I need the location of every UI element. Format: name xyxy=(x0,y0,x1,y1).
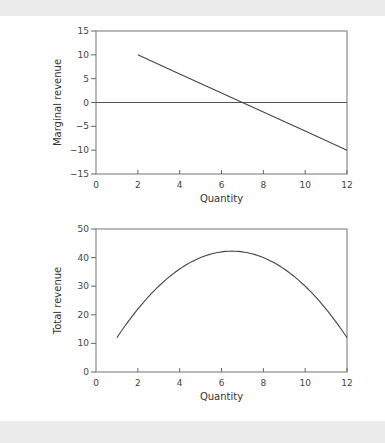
revenue-charts: 024681012−15−10−5051015QuantityMarginal … xyxy=(0,0,385,443)
x-tick-label: 12 xyxy=(341,378,352,388)
y-tick-label: −10 xyxy=(70,145,89,155)
x-tick-label: 0 xyxy=(93,180,99,190)
x-tick-label: 0 xyxy=(93,378,99,388)
x-tick-label: 12 xyxy=(341,180,352,190)
y-tick-label: 30 xyxy=(78,281,90,291)
y-tick-label: 0 xyxy=(83,98,89,108)
y-tick-label: 10 xyxy=(78,338,90,348)
x-tick-label: 2 xyxy=(135,378,141,388)
y-axis-title: Total revenue xyxy=(52,267,63,335)
x-tick-label: 8 xyxy=(260,378,266,388)
x-tick-label: 6 xyxy=(219,378,225,388)
plot-frame xyxy=(96,229,347,372)
y-tick-label: 20 xyxy=(78,310,90,320)
y-tick-label: 40 xyxy=(78,253,90,263)
x-tick-label: 2 xyxy=(135,180,141,190)
series-line xyxy=(117,251,347,338)
y-tick-label: 5 xyxy=(83,74,89,84)
x-tick-label: 8 xyxy=(260,180,266,190)
x-tick-label: 10 xyxy=(299,378,311,388)
x-tick-label: 6 xyxy=(219,180,225,190)
x-axis-title: Quantity xyxy=(200,391,243,402)
y-axis-title: Marginal revenue xyxy=(52,59,63,146)
x-tick-label: 10 xyxy=(299,180,311,190)
x-tick-label: 4 xyxy=(177,180,183,190)
x-tick-label: 4 xyxy=(177,378,183,388)
y-tick-label: −15 xyxy=(70,169,89,179)
y-tick-label: 15 xyxy=(78,26,89,36)
chart-total-revenue: 02468101201020304050QuantityTotal revenu… xyxy=(52,224,353,402)
y-tick-label: 10 xyxy=(78,50,90,60)
y-tick-label: 0 xyxy=(83,367,89,377)
chart-marginal-revenue: 024681012−15−10−5051015QuantityMarginal … xyxy=(52,26,353,204)
y-tick-label: 50 xyxy=(78,224,90,234)
y-tick-label: −5 xyxy=(76,121,89,131)
x-axis-title: Quantity xyxy=(200,193,243,204)
